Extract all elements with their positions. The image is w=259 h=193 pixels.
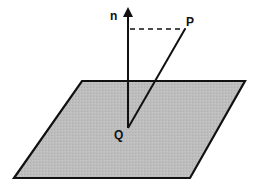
normal-arrowhead-icon — [123, 7, 133, 17]
label-p: P — [186, 15, 194, 29]
plane-distance-diagram: n P Q — [0, 0, 259, 193]
label-q: Q — [114, 128, 123, 142]
label-n: n — [110, 9, 117, 23]
plane — [14, 81, 245, 178]
